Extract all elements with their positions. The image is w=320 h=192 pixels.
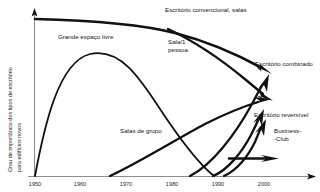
label-business-club-line1: Business- (274, 127, 301, 134)
curve-combined-office (190, 84, 263, 176)
series-conventional-office (35, 19, 272, 74)
label-single-person-room-line1: Sala/1 (168, 38, 186, 45)
label-group-rooms: Salas de grupo (120, 127, 162, 134)
x-tick-1950: 1950 (29, 181, 41, 187)
chart-canvas: 1950 1960 1970 1980 1990 2000 Grau de im… (0, 0, 320, 192)
x-tick-1970: 1970 (120, 181, 132, 187)
label-single-person-room-line2: pessoa (168, 46, 189, 53)
curve-conventional-office (35, 19, 262, 68)
office-types-trend-chart: 1950 1960 1970 1980 1990 2000 Grau de im… (0, 0, 320, 192)
series-business-club (224, 119, 266, 176)
label-reversible-office: Escritório reversível (254, 111, 308, 118)
x-tick-1960: 1960 (74, 181, 86, 187)
x-tick-1990: 1990 (212, 181, 224, 187)
y-axis-title-line2: para edifícios novos (16, 123, 22, 172)
series-group-rooms (110, 97, 272, 176)
label-business-club-line2: -Club (274, 135, 289, 142)
curve-group-rooms (110, 102, 258, 176)
label-open-plan-office: Grande espaço livre (58, 33, 114, 40)
y-axis-title: Grau de importância dos tipos de escritó… (7, 67, 22, 172)
curve-open-plan-office (35, 53, 214, 176)
label-combined-office: Escritório combinado (255, 60, 313, 67)
curve-business-club (224, 128, 261, 176)
x-tick-1980: 1980 (166, 181, 178, 187)
label-conventional-office: Escritório convencional, salas (165, 6, 247, 13)
series-open-plan-office (35, 53, 214, 176)
x-tick-labels: 1950 1960 1970 1980 1990 2000 (29, 181, 270, 187)
arrow-group-rooms-icon (254, 97, 272, 104)
x-tick-2000: 2000 (258, 181, 270, 187)
y-axis-title-line1: Grau de importância dos tipos de escritó… (7, 67, 13, 172)
series-annotations: Escritório convencional, salas Grande es… (58, 6, 313, 142)
